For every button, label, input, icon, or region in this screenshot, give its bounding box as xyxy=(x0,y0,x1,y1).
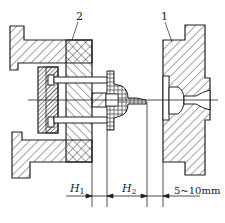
part-label-1: 1 xyxy=(161,10,168,23)
dim-label-gap: 5~10mm xyxy=(174,185,221,196)
dim-label-h2: H2 xyxy=(121,182,137,196)
molded-part xyxy=(106,71,146,130)
part-label-2: 2 xyxy=(76,10,83,23)
mold-diagram: 2 1 H1 H2 5~10mm xyxy=(0,0,225,223)
leader-line-1 xyxy=(165,22,172,42)
dim-label-h1: H1 xyxy=(69,182,85,196)
moving-mold-half xyxy=(10,26,108,178)
leader-line-2 xyxy=(72,22,78,40)
